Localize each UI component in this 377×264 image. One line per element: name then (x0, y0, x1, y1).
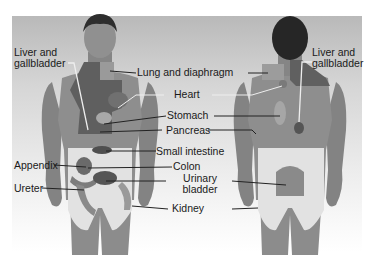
label-ureter: Ureter (14, 183, 43, 194)
label-small-intestine: Small intestine (156, 146, 224, 157)
label-colon: Colon (173, 161, 200, 172)
label-stomach: Stomach (167, 110, 208, 121)
label-line: bladder (167, 184, 233, 195)
label-heart: Heart (174, 89, 200, 100)
label-liver-gallbladder-back: Liver and gallbladder (312, 47, 363, 69)
label-urinary-bladder: Urinary bladder (167, 173, 233, 195)
label-line: gallbladder (312, 58, 363, 69)
label-kidney: Kidney (172, 203, 204, 214)
label-pancreas: Pancreas (166, 125, 210, 136)
referred-pain-diagram: Liver and gallbladder Appendix Ureter Lu… (0, 0, 377, 264)
label-appendix: Appendix (14, 160, 58, 171)
label-liver-gallbladder-front: Liver and gallbladder (14, 47, 65, 69)
label-line: gallbladder (14, 58, 65, 69)
label-lung-diaphragm: Lung and diaphragm (137, 67, 233, 78)
